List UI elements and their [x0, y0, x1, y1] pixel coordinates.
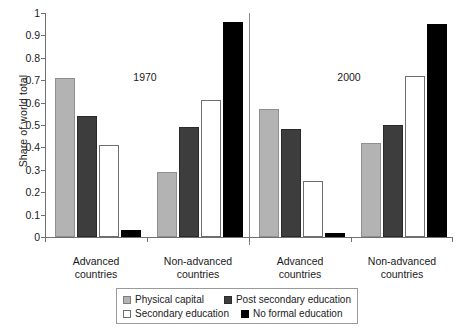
panel-label-1970: 1970	[115, 71, 175, 83]
y-tick-mark	[41, 170, 45, 171]
y-tick-label: 0.1	[4, 209, 40, 220]
group-label-advanced-1970: Advanced countries	[41, 255, 151, 280]
group-label-line1: Advanced	[41, 255, 151, 268]
bar-physical-capital	[259, 109, 279, 237]
bar-post-secondary-education	[383, 125, 403, 237]
bar-secondary-education	[405, 76, 425, 237]
bar-chart: Share of world total 1 0.9 0.8 0.7 0.6 0…	[0, 0, 457, 332]
bar-post-secondary-education	[179, 127, 199, 237]
legend-label: No formal education	[253, 308, 343, 319]
y-axis-line	[45, 13, 46, 238]
bar-post-secondary-education	[281, 129, 301, 237]
group-label-line2: countries	[347, 268, 457, 281]
group-label-line2: countries	[41, 268, 151, 281]
legend-swatch-icon	[123, 310, 131, 318]
panel-divider	[249, 13, 250, 245]
y-tick-mark	[41, 215, 45, 216]
legend-item-secondary-education: Secondary education	[123, 308, 241, 319]
y-tick-label: 0.8	[4, 53, 40, 64]
plot-area: 1 0.9 0.8 0.7 0.6 0.5 0.4 0.3 0.2 0.1 0 …	[45, 13, 453, 237]
y-tick-label: 0.2	[4, 187, 40, 198]
bar-physical-capital	[55, 78, 75, 237]
x-tick-mark	[45, 237, 46, 242]
group-label-non-advanced-1970: Non-advanced countries	[143, 255, 253, 280]
y-tick-label: 0	[4, 232, 40, 243]
bar-secondary-education	[201, 100, 221, 237]
group-label-advanced-2000: Advanced countries	[245, 255, 355, 280]
legend-item-physical-capital: Physical capital	[123, 294, 224, 305]
panel-label-2000: 2000	[319, 71, 379, 83]
y-tick-mark	[41, 125, 45, 126]
legend-row: Secondary education No formal education	[123, 307, 351, 320]
y-tick-mark	[41, 192, 45, 193]
x-tick-mark	[351, 237, 352, 242]
legend-row: Physical capital Post secondary educatio…	[123, 293, 351, 306]
group-label-line1: Advanced	[245, 255, 355, 268]
y-tick-label: 0.5	[4, 120, 40, 131]
legend: Physical capital Post secondary educatio…	[116, 288, 358, 324]
legend-item-post-secondary-education: Post secondary education	[224, 294, 351, 305]
group-label-line1: Non-advanced	[347, 255, 457, 268]
bar-no-formal-education	[427, 24, 447, 237]
legend-swatch-icon	[241, 310, 249, 318]
y-tick-mark	[41, 13, 45, 14]
y-tick-label: 0.7	[4, 75, 40, 86]
bar-no-formal-education	[223, 22, 243, 237]
y-tick-mark	[41, 35, 45, 36]
group-label-line2: countries	[245, 268, 355, 281]
y-tick-label: 0.6	[4, 97, 40, 108]
bar-physical-capital	[361, 143, 381, 237]
y-tick-mark	[41, 80, 45, 81]
group-label-line1: Non-advanced	[143, 255, 253, 268]
y-tick-label: 0.4	[4, 142, 40, 153]
bar-physical-capital	[157, 172, 177, 237]
legend-swatch-icon	[123, 296, 131, 304]
y-tick-mark	[41, 103, 45, 104]
y-tick-mark	[41, 58, 45, 59]
group-label-line2: countries	[143, 268, 253, 281]
group-label-non-advanced-2000: Non-advanced countries	[347, 255, 457, 280]
bar-secondary-education	[99, 145, 119, 237]
bar-no-formal-education	[121, 230, 141, 237]
x-tick-mark	[452, 237, 453, 242]
x-tick-mark	[249, 237, 250, 242]
y-tick-label: 1	[4, 8, 40, 19]
legend-label: Post secondary education	[236, 294, 351, 305]
bar-secondary-education	[303, 181, 323, 237]
y-tick-label: 0.3	[4, 165, 40, 176]
bar-no-formal-education	[325, 233, 345, 237]
y-tick-mark	[41, 147, 45, 148]
legend-label: Physical capital	[135, 294, 204, 305]
y-tick-label: 0.9	[4, 30, 40, 41]
legend-label: Secondary education	[135, 308, 229, 319]
legend-swatch-icon	[224, 296, 232, 304]
legend-item-no-formal-education: No formal education	[241, 308, 343, 319]
x-tick-mark	[147, 237, 148, 242]
bar-post-secondary-education	[77, 116, 97, 237]
